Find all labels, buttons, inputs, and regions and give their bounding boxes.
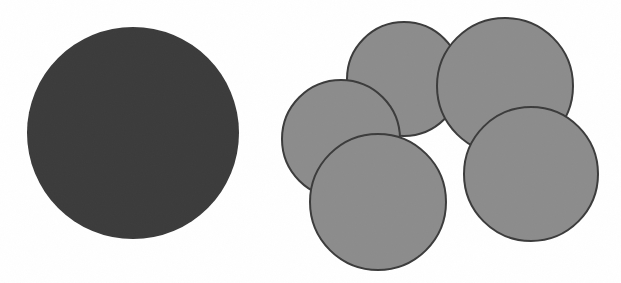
- large-disc-group: [27, 27, 239, 239]
- small-circle-bottom-right: [464, 107, 598, 241]
- circles-figure: [0, 0, 621, 283]
- small-circle-bottom-left: [310, 134, 446, 270]
- figure-canvas: [0, 0, 621, 283]
- large-dark-circle: [27, 27, 239, 239]
